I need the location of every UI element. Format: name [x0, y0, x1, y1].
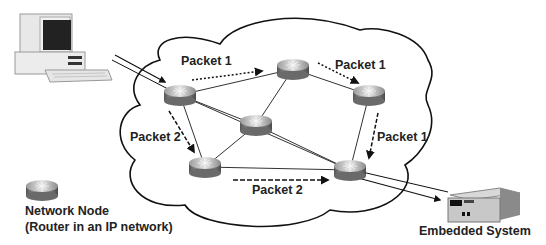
legend-router-icon — [26, 180, 58, 201]
router-icon — [353, 85, 385, 106]
legend-title: Network Node — [25, 203, 109, 219]
packet2-label-left: Packet 2 — [130, 130, 181, 144]
router-icon — [334, 160, 366, 181]
embedded-system-icon — [448, 188, 520, 222]
router-icon — [277, 59, 309, 80]
computer-icon — [15, 14, 112, 82]
packet1-label-right-top: Packet 1 — [335, 58, 386, 72]
legend-subtitle: (Router in an IP network) — [25, 219, 173, 235]
packet2-label-bottom: Packet 2 — [252, 183, 303, 197]
packet1-label-top: Packet 1 — [181, 54, 232, 68]
router-icon — [164, 85, 196, 106]
router-icon — [240, 115, 272, 136]
router-icon — [189, 157, 221, 178]
embedded-system-label: Embedded System — [419, 224, 531, 238]
packet1-label-right: Packet 1 — [377, 130, 428, 144]
